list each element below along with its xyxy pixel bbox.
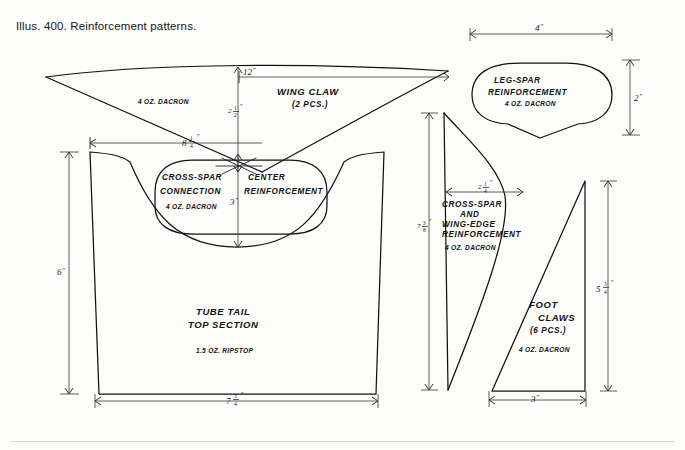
dim-foot-claws-base: 3” bbox=[489, 391, 586, 407]
page-bottom-rule bbox=[10, 441, 675, 442]
svg-text:8: 8 bbox=[423, 227, 426, 233]
svg-text:”: ” bbox=[197, 133, 200, 139]
dim-wing-claw-height: 2 1 2 ” bbox=[228, 67, 243, 172]
dim-frac-num-wc-h: 1 bbox=[234, 105, 237, 111]
wing-claw-title: WING CLAW bbox=[277, 86, 339, 97]
dim-leg-spar-height: 2” bbox=[622, 60, 643, 135]
svg-text:”: ” bbox=[490, 179, 493, 185]
leg-spar-title-1: LEG-SPAR bbox=[494, 76, 541, 85]
dim-label-cross-spar-width: 2 bbox=[478, 183, 482, 191]
center-reinf-title-3: CENTER bbox=[248, 173, 285, 182]
dim-label-tube-tail-height: 6” bbox=[57, 266, 66, 277]
cross-spar-wing-edge-shape bbox=[444, 113, 506, 390]
dim-tube-tail-height: 6” bbox=[57, 152, 79, 394]
tube-tail-title-1: TUBE TAIL bbox=[196, 306, 250, 317]
dim-frac-den-wc-h: 2 bbox=[234, 112, 237, 118]
pattern-drawing: 12” 2 1 2 ” WING CLAW (2 PCS.) 4 OZ. DAC… bbox=[0, 0, 685, 450]
illustration-sheet: Illus. 400. Reinforcement patterns. 12” … bbox=[0, 0, 685, 450]
tube-tail-material: 1.5 OZ. RIPSTOP bbox=[196, 347, 253, 354]
svg-text:3: 3 bbox=[234, 393, 237, 399]
svg-text:”: ” bbox=[429, 218, 432, 224]
wing-claw-material: 4 OZ. DACRON bbox=[137, 98, 189, 105]
svg-text:4: 4 bbox=[484, 188, 487, 194]
dim-cross-spar-height: 7 3 8 ” bbox=[417, 113, 438, 390]
foot-claws-title-1: FOOT bbox=[529, 299, 558, 310]
svg-text:1: 1 bbox=[190, 135, 193, 141]
wing-claw-qty: (2 PCS.) bbox=[292, 100, 328, 109]
cs-we-material: 4 OZ. DACRON bbox=[444, 244, 496, 251]
dim-cross-spar-width: 2 1 4 ” bbox=[446, 179, 523, 196]
dim-label-tube-tail-bottom: 7 bbox=[226, 396, 231, 406]
dim-leg-spar-width: 4” bbox=[470, 22, 612, 41]
svg-text:”: ” bbox=[240, 103, 243, 109]
dim-label-wing-claw-height: 2 bbox=[228, 107, 232, 115]
svg-text:4: 4 bbox=[190, 143, 193, 149]
dim-eight-quarter: 8 1 4 ” bbox=[90, 133, 262, 149]
dim-foot-claws-height: 5 3 4 ” bbox=[596, 181, 617, 391]
dim-label-wing-claw-length: 12” bbox=[243, 66, 256, 77]
svg-text:3: 3 bbox=[604, 281, 607, 287]
tube-tail-shape bbox=[90, 152, 384, 394]
tube-tail-title-2: TOP SECTION bbox=[188, 319, 259, 330]
foot-claws-shape bbox=[492, 181, 585, 391]
center-reinf-title-2: CONNECTION bbox=[160, 187, 222, 196]
center-reinf-title-1: CROSS-SPAR bbox=[162, 173, 222, 182]
leg-spar-title-2: REINFORCEMENT bbox=[488, 88, 568, 97]
svg-text:1: 1 bbox=[484, 181, 487, 187]
center-reinf-title-4: REINFORCEMENT bbox=[244, 187, 324, 196]
foot-claws-material: 4 OZ. DACRON bbox=[518, 346, 570, 353]
dim-label-center-depth: 3” bbox=[229, 196, 239, 207]
dim-label-leg-spar-height: 2” bbox=[634, 92, 643, 103]
svg-text:3: 3 bbox=[423, 220, 426, 226]
foot-claws-qty: (6 PCS.) bbox=[530, 326, 566, 335]
wing-claw-shape bbox=[46, 65, 448, 172]
cs-we-title-4: REINFORCEMENT bbox=[442, 230, 522, 239]
svg-text:4: 4 bbox=[604, 289, 607, 295]
center-reinforcement-shape bbox=[155, 160, 327, 234]
dim-label-foot-claws-height: 5 bbox=[596, 284, 601, 294]
dim-label-leg-spar-width: 4” bbox=[535, 22, 544, 33]
dim-label-foot-claws-base: 3” bbox=[530, 393, 540, 404]
leg-spar-material: 4 OZ. DACRON bbox=[504, 100, 556, 107]
dim-label-cross-spar-height: 7 bbox=[417, 222, 421, 230]
center-reinf-material: 4 OZ. DACRON bbox=[165, 203, 217, 210]
svg-text:”: ” bbox=[611, 279, 614, 285]
cs-we-title-2: AND bbox=[459, 210, 480, 219]
cs-we-title-1: CROSS-SPAR bbox=[442, 200, 502, 209]
foot-claws-title-2: CLAWS bbox=[538, 312, 575, 323]
svg-text:4: 4 bbox=[234, 401, 237, 407]
dim-label-eight-quarter: 8 bbox=[182, 138, 187, 148]
cs-we-title-3: WING-EDGE bbox=[442, 220, 496, 229]
dim-wing-claw-length: 12” bbox=[239, 66, 449, 83]
